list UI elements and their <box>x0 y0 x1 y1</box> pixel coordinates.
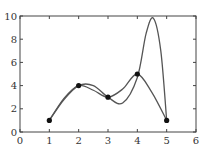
y-tick-label: 10 <box>4 11 17 22</box>
data-point-marker <box>164 118 169 123</box>
series-line <box>49 18 166 121</box>
y-tick-label: 6 <box>11 57 17 68</box>
x-tick-label: 3 <box>105 135 111 146</box>
y-tick-label: 4 <box>11 80 17 91</box>
y-tick-label: 2 <box>11 103 17 114</box>
data-point-marker <box>47 118 52 123</box>
x-tick-label: 0 <box>17 135 23 146</box>
data-point-marker <box>135 71 140 76</box>
x-tick-label: 6 <box>193 135 199 146</box>
x-tick-label: 1 <box>46 135 52 146</box>
plot-area: 01234560246810 <box>4 11 199 147</box>
x-tick-label: 4 <box>134 135 140 146</box>
y-tick-label: 0 <box>11 127 17 138</box>
x-tick-label: 5 <box>163 135 169 146</box>
x-tick-label: 2 <box>75 135 81 146</box>
data-point-marker <box>105 95 110 100</box>
y-tick-label: 8 <box>11 34 17 45</box>
data-point-marker <box>76 83 81 88</box>
axes-frame <box>20 16 196 132</box>
chart: 01234560246810 <box>0 0 204 151</box>
